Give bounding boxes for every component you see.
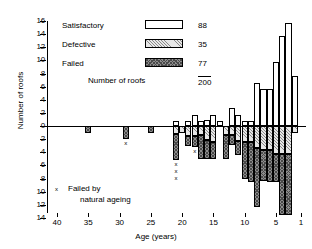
legend-value-failed: 77 (198, 59, 207, 68)
bar-defective (229, 126, 235, 135)
bar-satisfactory (210, 115, 216, 126)
satisfactory-swatch-icon (145, 20, 183, 29)
y-tick-label: 8 (1, 175, 45, 183)
bar-satisfactory (267, 89, 273, 126)
bar-defective (223, 126, 229, 135)
y-tick (40, 205, 46, 206)
y-tick (40, 74, 46, 75)
annotation-x-marker: x (55, 184, 58, 195)
legend-value-satisfactory: 88 (198, 21, 207, 30)
bar-failed (279, 154, 285, 214)
x-tick-label: 20 (172, 219, 192, 227)
bar-defective (198, 126, 204, 135)
bar-failed (173, 134, 179, 160)
bar-satisfactory (279, 36, 285, 126)
bar-defective (192, 126, 198, 136)
legend-label-satisfactory: Satisfactory (62, 21, 104, 30)
x-tick (88, 213, 89, 217)
x-tick (245, 213, 246, 217)
x-tick-label: 10 (235, 219, 255, 227)
bar-failed (192, 136, 198, 147)
bar-defective (242, 126, 248, 142)
x-tick-label: 40 (47, 219, 67, 227)
y-tick-label: 12 (1, 201, 45, 209)
bar-failed (273, 154, 279, 182)
natural-ageing-x-marker: x (172, 168, 180, 174)
bar-failed (223, 135, 229, 159)
bar-failed (210, 142, 216, 158)
annotation-line-2: natural ageing (80, 194, 131, 205)
bar-defective (235, 126, 241, 141)
natural-ageing-x-marker: x (172, 161, 180, 167)
bar-defective (279, 126, 285, 154)
x-tick (57, 213, 58, 217)
y-tick (40, 87, 46, 88)
bar-failed (285, 154, 291, 214)
bar-satisfactory (217, 121, 223, 126)
legend: Satisfactory 88 Defective 35 Failed 77 N… (62, 18, 242, 89)
y-tick (40, 165, 46, 166)
failed-swatch-icon (145, 58, 183, 67)
y-tick (40, 218, 46, 219)
y-tick (40, 21, 46, 22)
x-tick-label: 30 (110, 219, 130, 227)
bar-defective (285, 126, 291, 154)
bar-satisfactory (235, 115, 241, 126)
bar-failed (254, 148, 260, 208)
bar-defective (204, 126, 210, 140)
y-tick-label: 10 (1, 188, 45, 196)
bar-failed (248, 142, 254, 181)
bar-satisfactory (292, 76, 298, 126)
legend-label-defective: Defective (62, 40, 95, 49)
bar-defective (254, 126, 260, 148)
bar-defective (260, 126, 266, 150)
x-tick (120, 213, 121, 217)
bar-defective (267, 126, 273, 150)
x-tick (213, 213, 214, 217)
roof-condition-chart: 16141210864202468101214 Number of roofs … (0, 0, 312, 249)
bar-failed (123, 126, 129, 139)
bar-defective (173, 126, 179, 134)
bar-failed (148, 126, 154, 133)
bar-satisfactory (192, 115, 198, 126)
y-tick-label: 14 (1, 214, 45, 222)
legend-row-defective: Defective 35 (62, 37, 242, 56)
x-tick-label: 35 (78, 219, 98, 227)
defective-swatch-icon (145, 39, 183, 48)
bar-satisfactory (273, 62, 279, 126)
bar-failed (185, 136, 191, 146)
y-tick (40, 152, 46, 153)
legend-label-failed: Failed (62, 59, 84, 68)
y-axis-title: Number of roofs (16, 36, 25, 166)
bar-failed (260, 150, 266, 182)
bar-defective (210, 126, 216, 142)
x-tick (182, 213, 183, 217)
bar-failed (85, 126, 91, 133)
legend-row-satisfactory: Satisfactory 88 (62, 18, 242, 37)
bar-failed (229, 135, 235, 145)
y-tick (40, 34, 46, 35)
bar-failed (198, 135, 204, 159)
bar-defective (273, 126, 279, 154)
natural-ageing-x-marker: x (191, 148, 199, 154)
legend-total-label: Number of roofs (88, 76, 145, 85)
x-tick-label: 1 (291, 219, 311, 227)
bar-defective (185, 126, 191, 136)
y-tick (40, 126, 46, 127)
annotation-line-1: Failed by (68, 183, 100, 194)
bar-defective (179, 126, 185, 133)
bar-defective (292, 126, 298, 133)
x-tick (276, 213, 277, 217)
x-tick-label: 15 (203, 219, 223, 227)
y-tick-label: 16 (1, 17, 45, 25)
y-tick (40, 60, 46, 61)
bar-satisfactory (229, 108, 235, 126)
x-tick-label: 25 (141, 219, 161, 227)
x-tick (151, 213, 152, 217)
x-tick-label: 5 (266, 219, 286, 227)
y-tick (40, 192, 46, 193)
bar-defective (248, 126, 254, 142)
bar-failed (204, 140, 210, 159)
bar-satisfactory (254, 83, 260, 126)
bar-failed (235, 141, 241, 155)
